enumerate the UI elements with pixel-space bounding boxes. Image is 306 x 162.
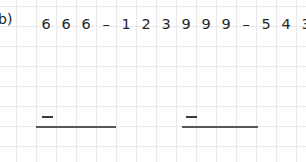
gridline-horizontal bbox=[0, 146, 306, 147]
minus-sign-icon bbox=[42, 116, 53, 118]
operator-cell: – bbox=[236, 14, 256, 34]
gridline-horizontal bbox=[0, 86, 306, 87]
problem-label: b) bbox=[0, 12, 12, 26]
gridline-horizontal bbox=[0, 6, 306, 7]
digit-cell: 3 bbox=[296, 14, 306, 34]
digit-cell: 3 bbox=[156, 14, 176, 34]
answer-rule-right bbox=[182, 126, 258, 128]
expression-right: 9 9 9 – 5 4 3 bbox=[176, 14, 306, 34]
answer-rule-left bbox=[36, 126, 116, 128]
digit-cell: 6 bbox=[56, 14, 76, 34]
digit-cell: 6 bbox=[76, 14, 96, 34]
digit-cell: 2 bbox=[136, 14, 156, 34]
digit-cell: 9 bbox=[196, 14, 216, 34]
digit-cell: 9 bbox=[216, 14, 236, 34]
digit-cell: 1 bbox=[116, 14, 136, 34]
gridline-horizontal bbox=[0, 66, 306, 67]
answer-slot-left[interactable] bbox=[36, 106, 116, 128]
digit-cell: 5 bbox=[256, 14, 276, 34]
digit-cell: 6 bbox=[36, 14, 56, 34]
worksheet-canvas: b) 6 6 6 – 1 2 3 9 9 9 – 5 4 3 bbox=[0, 0, 306, 162]
operator-cell: – bbox=[96, 14, 116, 34]
minus-sign-icon bbox=[186, 116, 197, 118]
digit-cell: 9 bbox=[176, 14, 196, 34]
digit-cell: 4 bbox=[276, 14, 296, 34]
gridline-vertical bbox=[16, 0, 17, 162]
answer-slot-right[interactable] bbox=[182, 106, 258, 128]
gridline-horizontal bbox=[0, 46, 306, 47]
expression-left: 6 6 6 – 1 2 3 bbox=[36, 14, 176, 34]
